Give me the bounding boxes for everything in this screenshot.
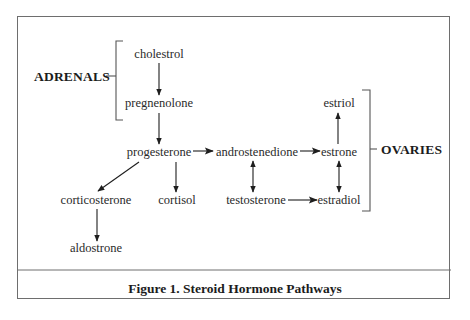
figure-caption: Figure 1. Steroid Hormone Pathways bbox=[128, 281, 342, 296]
node-testosterone: testosterone bbox=[226, 193, 286, 207]
node-progesterone: progesterone bbox=[127, 145, 192, 159]
node-estradiol: estradiol bbox=[317, 193, 361, 207]
node-estrone: estrone bbox=[321, 145, 358, 159]
adrenals-label: ADRENALS bbox=[34, 69, 110, 84]
node-corticosterone: corticosterone bbox=[61, 193, 132, 207]
figure-frame: ADRENALS OVARIES cholestrol pregnenolone… bbox=[17, 16, 450, 299]
node-cholestrol: cholestrol bbox=[134, 47, 184, 61]
arrow-progesterone-corticosterone bbox=[98, 162, 139, 191]
node-pregnenolone: pregnenolone bbox=[125, 96, 193, 110]
node-estriol: estriol bbox=[323, 96, 355, 110]
node-aldostrone: aldostrone bbox=[70, 241, 123, 255]
ovaries-bracket bbox=[362, 90, 377, 211]
node-cortisol: cortisol bbox=[158, 193, 196, 207]
ovaries-label: OVARIES bbox=[381, 142, 442, 157]
pathway-diagram: ADRENALS OVARIES cholestrol pregnenolone… bbox=[18, 17, 451, 300]
node-androstenedione: androstenedione bbox=[216, 145, 298, 159]
